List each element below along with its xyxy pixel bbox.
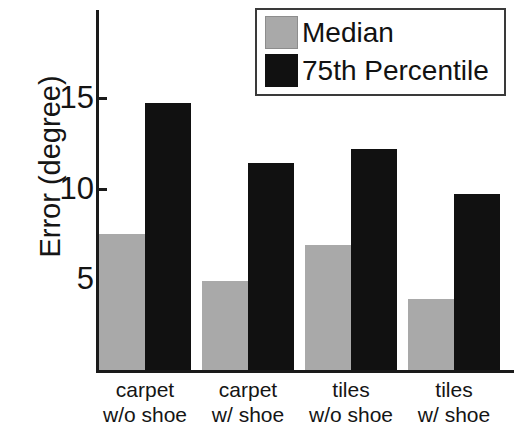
bar-median-2 — [305, 245, 351, 370]
bar-median-0 — [99, 234, 145, 370]
x-axis-tick-label-0: carpetw/o shoe — [85, 378, 205, 428]
x-label-line2: w/o shoe — [291, 403, 411, 428]
y-axis-tick-label: 10 — [14, 173, 94, 204]
x-label-line1: carpet — [188, 378, 308, 403]
bar-pct75-2 — [351, 149, 397, 370]
x-label-line2: w/o shoe — [85, 403, 205, 428]
legend-swatch-percentile — [265, 54, 298, 87]
bar-median-3 — [408, 299, 454, 370]
bar-median-1 — [202, 281, 248, 370]
y-axis-tick-label: 15 — [14, 82, 94, 113]
legend: Median 75th Percentile — [255, 8, 506, 96]
x-label-line2: w/ shoe — [188, 403, 308, 428]
x-axis-tick-label-3: tilesw/ shoe — [394, 378, 514, 428]
legend-entry-median: Median — [265, 16, 394, 49]
bar-pct75-0 — [145, 103, 191, 370]
bar-pct75-3 — [454, 194, 500, 370]
legend-label-percentile: 75th Percentile — [302, 57, 489, 85]
x-label-line1: carpet — [85, 378, 205, 403]
legend-label-median: Median — [302, 19, 394, 47]
legend-entry-percentile: 75th Percentile — [265, 54, 489, 87]
x-axis-tick-label-1: carpetw/ shoe — [188, 378, 308, 428]
y-axis-tick-label: 5 — [14, 263, 94, 294]
bar-chart-figure: Error (degree) 51015carpetw/o shoecarpet… — [0, 0, 514, 434]
bar-pct75-1 — [248, 163, 294, 370]
x-axis-tick-label-2: tilesw/o shoe — [291, 378, 411, 428]
x-label-line1: tiles — [291, 378, 411, 403]
x-label-line1: tiles — [394, 378, 514, 403]
legend-swatch-median — [265, 16, 298, 49]
x-label-line2: w/ shoe — [394, 403, 514, 428]
y-axis-tick — [96, 97, 107, 100]
y-axis-tick — [96, 188, 107, 191]
